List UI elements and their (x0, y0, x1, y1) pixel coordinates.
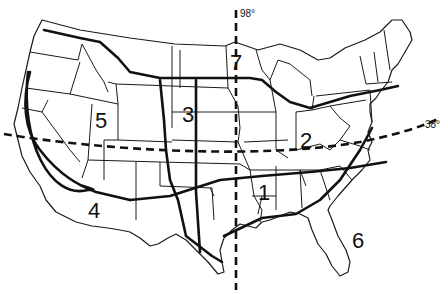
region-label-2: 2 (300, 128, 312, 153)
region-label-5: 5 (95, 108, 107, 133)
region-label-3: 3 (182, 102, 194, 127)
region-label-6: 6 (352, 228, 364, 253)
parallel-38-line (4, 118, 440, 152)
us-regions-map: 98° 38° 1 2 3 4 5 6 7 (0, 0, 448, 294)
region-label-1: 1 (258, 180, 270, 205)
region-label-7: 7 (230, 50, 242, 75)
parallel-38-label: 38° (425, 119, 440, 130)
region-label-4: 4 (88, 198, 100, 223)
state-borders (22, 30, 392, 222)
meridian-98-label: 98° (240, 8, 255, 19)
